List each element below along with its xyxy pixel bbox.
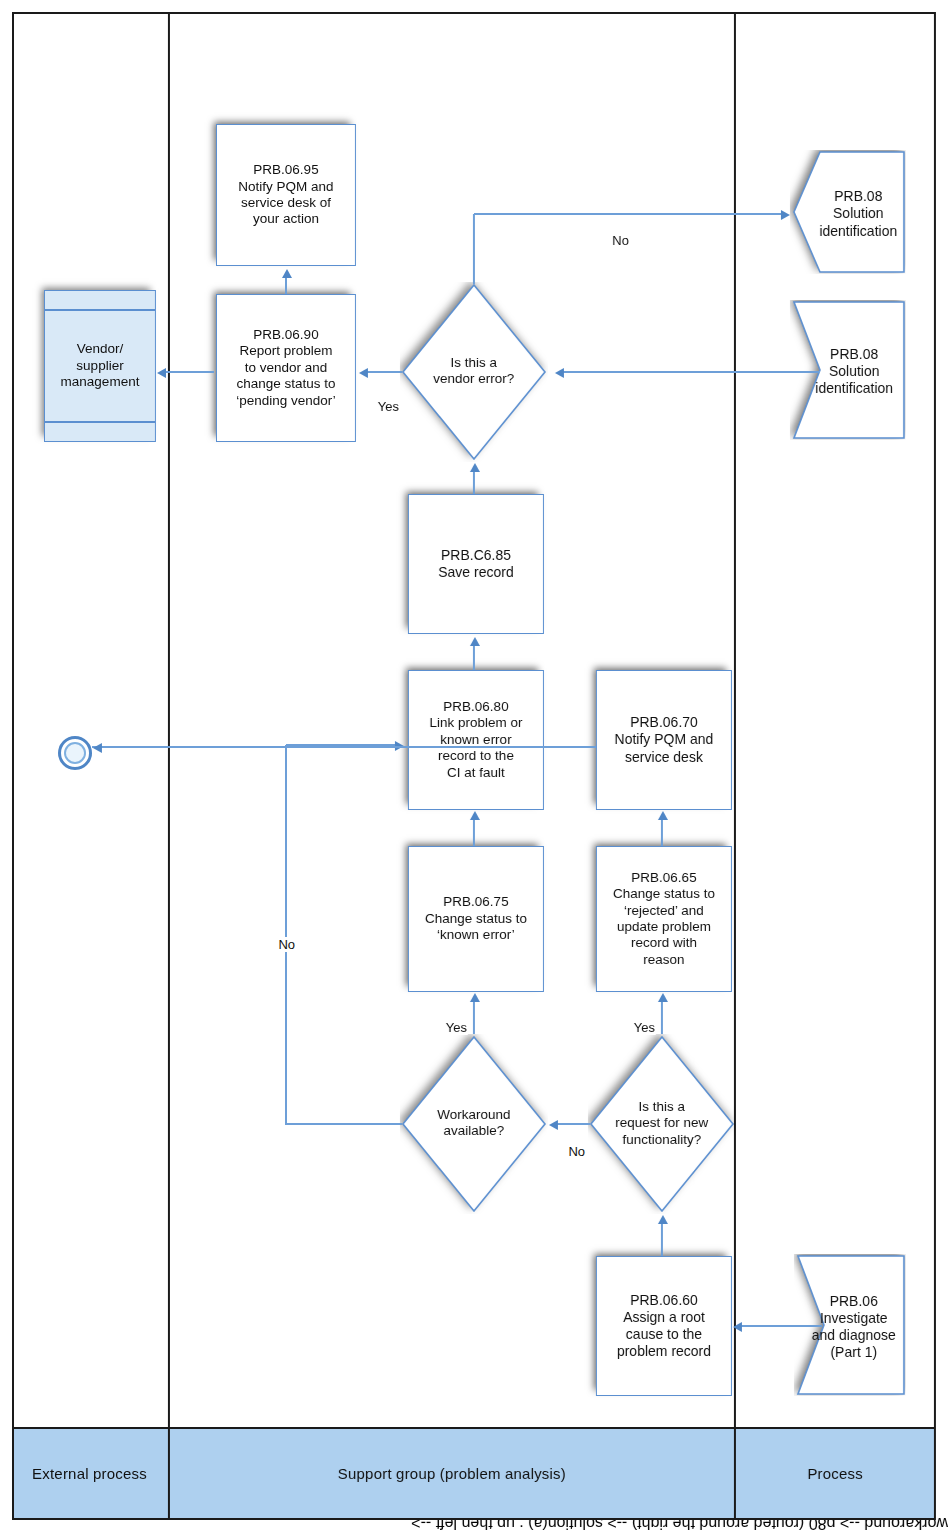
edge-label-workaround-no: No	[277, 937, 296, 952]
offpage-investigate-code: PRB.06	[830, 1293, 878, 1310]
decision-workaround-available-text: Workaround available?	[437, 1108, 510, 1141]
node-prb-06-75-text: Change status to ‘known error’	[425, 911, 527, 944]
node-prb-06-75-code: PRB.06.75	[443, 894, 508, 910]
edge-p75-to-p80	[473, 818, 475, 846]
lane-header-external-label: External process	[33, 1465, 148, 1482]
decision-vendor-error[interactable]: Is this a vendor error?	[400, 282, 548, 462]
edge-vendor-no-seg2	[474, 213, 782, 215]
edge-p65-to-p70-arrow	[658, 811, 668, 820]
edge-new-functionality-yes	[661, 1000, 663, 1034]
edge-p70-to-end-seg	[92, 746, 596, 748]
lane-header-process: Process	[736, 1427, 934, 1520]
node-prb-06-60-text: Assign a root cause to the problem recor…	[617, 1309, 711, 1360]
edge-p80-to-p85	[473, 644, 475, 670]
decision-workaround-available[interactable]: Workaround available?	[400, 1034, 548, 1214]
edge-vendor-no-arrow	[781, 210, 790, 220]
edge-label-new-functionality-yes: Yes	[633, 1020, 656, 1035]
offpage-solution-identification-a[interactable]: PRB.08 Solution identification	[794, 154, 906, 274]
node-prb-06-60-code: PRB.06.60	[630, 1292, 698, 1309]
rotated-scan-canvas: Process Support group (problem analysis)…	[0, 0, 948, 1532]
offpage-solution-b-code: PRB.08	[830, 346, 878, 363]
node-prb-06-95-code: PRB.06.95	[253, 162, 318, 178]
flowchart-canvas: Process Support group (problem analysis)…	[0, 0, 948, 1532]
lane-header-support-group: Support group (problem analysis)	[170, 1427, 734, 1520]
node-prb-06-90-code: PRB.06.90	[253, 327, 318, 343]
node-prb-06-70-code: PRB.06.70	[630, 714, 698, 731]
node-prb-06-65-text: Change status to ‘rejected’ and update p…	[613, 886, 715, 968]
edge-new-functionality-yes-arrow	[658, 993, 668, 1002]
node-prb-06-65[interactable]: PRB.06.65 Change status to ‘rejected’ an…	[596, 846, 732, 992]
node-prb-06-75[interactable]: PRB.06.75 Change status to ‘known error’	[408, 846, 544, 992]
decision-vendor-error-text: Is this a vendor error?	[433, 356, 514, 389]
edge-p80-to-p85-arrow	[470, 637, 480, 646]
edge-p85-to-vendor-error	[473, 470, 475, 494]
edge-solution-b-to-vendor-error-arrow	[555, 368, 564, 378]
node-prb-06-90-text: Report problem to vendor and change stat…	[236, 343, 336, 409]
edge-p70-to-end-arrow	[93, 743, 102, 753]
edge-p90-to-vendor-management-arrow	[157, 368, 166, 378]
node-prb-06-85-text: Save record	[438, 564, 513, 581]
node-prb-06-90[interactable]: PRB.06.90 Report problem to vendor and c…	[216, 294, 356, 442]
edge-solution-b-to-vendor-error	[562, 371, 820, 373]
edge-p85-to-vendor-error-arrow	[470, 463, 480, 472]
node-prb-06-70[interactable]: PRB.06.70 Notify PQM and service desk	[596, 670, 732, 810]
edge-new-functionality-no	[556, 1123, 590, 1125]
offpage-solution-a-text: Solution identification	[814, 205, 901, 239]
decision-new-functionality[interactable]: Is this a request for new functionality?	[588, 1034, 736, 1214]
end-terminator-inner	[64, 742, 86, 764]
node-prb-06-60[interactable]: PRB.06.60 Assign a root cause to the pro…	[596, 1256, 732, 1396]
node-prb-06-80[interactable]: PRB.06.80 Link problem or known error re…	[408, 670, 544, 810]
edge-p65-to-p70	[661, 818, 663, 846]
decision-new-functionality-text: Is this a request for new functionality?	[615, 1099, 708, 1148]
edge-investigate-to-p60-arrow	[733, 1322, 742, 1332]
node-prb-06-95[interactable]: PRB.06.95 Notify PQM and service desk of…	[216, 124, 356, 266]
edge-p90-to-vendor-management	[164, 371, 214, 373]
node-prb-06-80-text: Link problem or known error record to th…	[429, 715, 522, 781]
edge-label-vendor-no: No	[611, 233, 630, 248]
edge-label-workaround-yes: Yes	[445, 1020, 468, 1035]
node-prb-06-95-text: Notify PQM and service desk of your acti…	[238, 179, 333, 228]
lane-header-external: External process	[12, 1427, 168, 1520]
edge-p60-to-new-functionality-arrow	[658, 1215, 668, 1224]
edge-vendor-no-seg1	[473, 214, 475, 284]
lane-divider-2	[168, 12, 170, 1520]
offpage-solution-a-code: PRB.08	[834, 188, 882, 205]
node-prb-06-85-code: PRB.C6.85	[441, 547, 511, 564]
node-prb-06-70-text: Notify PQM and service desk	[615, 731, 714, 765]
lane-divider-1	[734, 12, 736, 1520]
node-prb-06-85[interactable]: PRB.C6.85 Save record	[408, 494, 544, 634]
edge-investigate-to-p60	[740, 1325, 822, 1327]
edge-p60-to-new-functionality	[661, 1222, 663, 1256]
edge-workaround-no-seg2	[285, 745, 287, 1125]
edge-workaround-yes	[473, 1000, 475, 1034]
edge-label-vendor-yes: Yes	[377, 399, 400, 414]
end-terminator[interactable]	[58, 736, 92, 770]
edge-workaround-yes-arrow	[470, 993, 480, 1002]
offpage-solution-b-text: Solution identification	[810, 363, 900, 397]
offpage-investigate-text: Investigate and diagnose (Part 1)	[811, 1310, 897, 1361]
node-prb-06-80-code: PRB.06.80	[443, 699, 508, 715]
lane-header-process-label: Process	[807, 1465, 863, 1482]
node-prb-06-65-code: PRB.06.65	[631, 870, 696, 886]
edge-label-new-functionality-no: No	[567, 1144, 586, 1159]
offpage-investigate-and-diagnose[interactable]: PRB.06 Investigate and diagnose (Part 1)	[798, 1258, 906, 1396]
edge-workaround-no-seg1	[286, 1123, 402, 1125]
edge-p90-to-p95-arrow	[282, 269, 292, 278]
edge-new-functionality-no-arrow	[549, 1120, 558, 1130]
node-vendor-supplier-management-text: Vendor/ supplier management	[61, 341, 140, 390]
lane-header-support-group-label: Support group (problem analysis)	[338, 1465, 566, 1482]
edge-p75-to-p80-arrow	[470, 811, 480, 820]
edge-vendor-yes-arrow	[359, 368, 368, 378]
node-vendor-supplier-management[interactable]: Vendor/ supplier management	[44, 290, 156, 442]
edge-vendor-yes	[366, 371, 402, 373]
